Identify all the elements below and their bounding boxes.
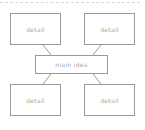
detail-node-top-left: detail	[10, 13, 61, 45]
connector-top-right	[93, 45, 101, 55]
detail-node-bottom-right: detail	[84, 84, 135, 116]
main-idea-label: main idea	[55, 61, 87, 68]
connector-bottom-left	[43, 74, 51, 84]
main-idea-node: main idea	[35, 55, 108, 74]
node-label: detail	[26, 26, 45, 33]
detail-node-top-right: detail	[84, 13, 135, 45]
detail-node-bottom-left: detail	[10, 84, 61, 116]
connector-top-left	[43, 45, 51, 55]
node-label: detail	[100, 97, 119, 104]
node-label: detail	[100, 26, 119, 33]
node-label: detail	[26, 97, 45, 104]
connector-bottom-right	[93, 74, 101, 84]
